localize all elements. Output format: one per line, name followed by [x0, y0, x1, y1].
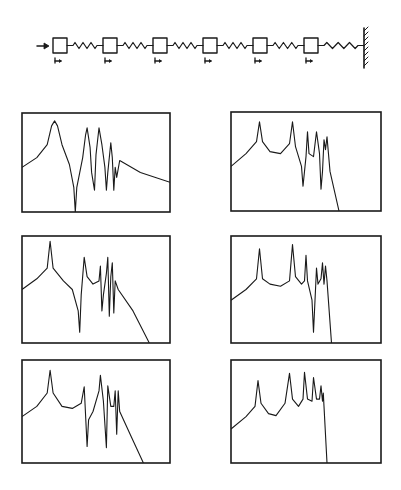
spring-icon — [267, 43, 304, 49]
spring-icon — [217, 43, 253, 49]
displacement-marker-icon — [205, 58, 212, 63]
response-row1-left — [22, 113, 170, 212]
displacement-marker-icon — [55, 58, 62, 63]
displacement-marker-icon — [306, 58, 313, 63]
mass-spring-chain — [37, 27, 368, 68]
response-row2-right — [231, 236, 381, 343]
mass-block — [203, 38, 217, 53]
fixed-wall-icon — [364, 27, 368, 68]
plot-frame — [231, 360, 381, 463]
diagram-canvas — [0, 0, 401, 490]
displacement-marker-icon — [255, 58, 262, 63]
response-curve — [22, 121, 170, 212]
plot-frame — [22, 236, 170, 343]
response-curve — [231, 122, 339, 211]
force-arrow-icon — [37, 43, 49, 49]
response-row3-right — [231, 360, 381, 463]
displacement-marker-icon — [105, 58, 112, 63]
mass-block — [253, 38, 267, 53]
response-row2-left — [22, 236, 170, 343]
response-row1-right — [231, 112, 381, 211]
displacement-marker-icon — [155, 58, 162, 63]
plot-frame — [22, 360, 170, 463]
spring-icon — [167, 43, 203, 49]
response-curve — [231, 245, 332, 343]
spring-icon — [67, 43, 103, 49]
response-curve — [22, 241, 149, 343]
response-curve — [22, 370, 143, 463]
spring-icon — [117, 43, 153, 49]
response-plots — [22, 112, 381, 463]
spring-icon — [318, 43, 364, 49]
mass-block — [153, 38, 167, 53]
mass-block — [304, 38, 318, 53]
mass-block — [103, 38, 117, 53]
plot-frame — [231, 236, 381, 343]
response-row3-left — [22, 360, 170, 463]
response-curve — [231, 372, 327, 463]
mass-block — [53, 38, 67, 53]
